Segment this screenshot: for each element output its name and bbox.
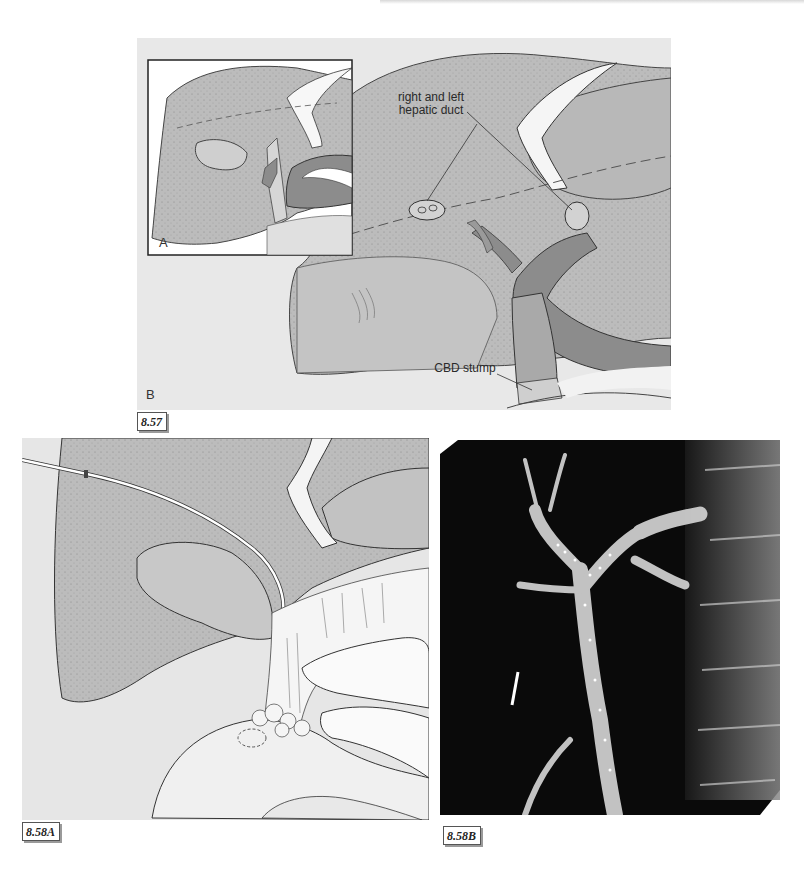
figure-label-8-58b: 8.58B — [443, 826, 481, 845]
figure-label-8-57: 8.57 — [137, 412, 167, 431]
figure-label-8-58a: 8.58A — [22, 822, 60, 841]
inset-panel-a — [148, 60, 352, 255]
annotation-hepatic-duct-line2: hepatic duct — [381, 104, 481, 117]
figure-8-57: A B right and left hepatic duct CBD stum… — [137, 38, 671, 410]
figure-8-58b — [440, 440, 780, 815]
figure-8-58a-illustration — [22, 438, 429, 820]
page-top-edge — [380, 0, 804, 4]
annotation-hepatic-duct: right and left hepatic duct — [381, 91, 481, 117]
annotation-cbd-stump: CBD stump — [425, 362, 505, 375]
figure-8-58a — [22, 438, 429, 820]
panel-letter-a: A — [159, 235, 168, 250]
figure-8-58b-radiograph — [440, 440, 780, 815]
panel-letter-b: B — [146, 387, 155, 402]
